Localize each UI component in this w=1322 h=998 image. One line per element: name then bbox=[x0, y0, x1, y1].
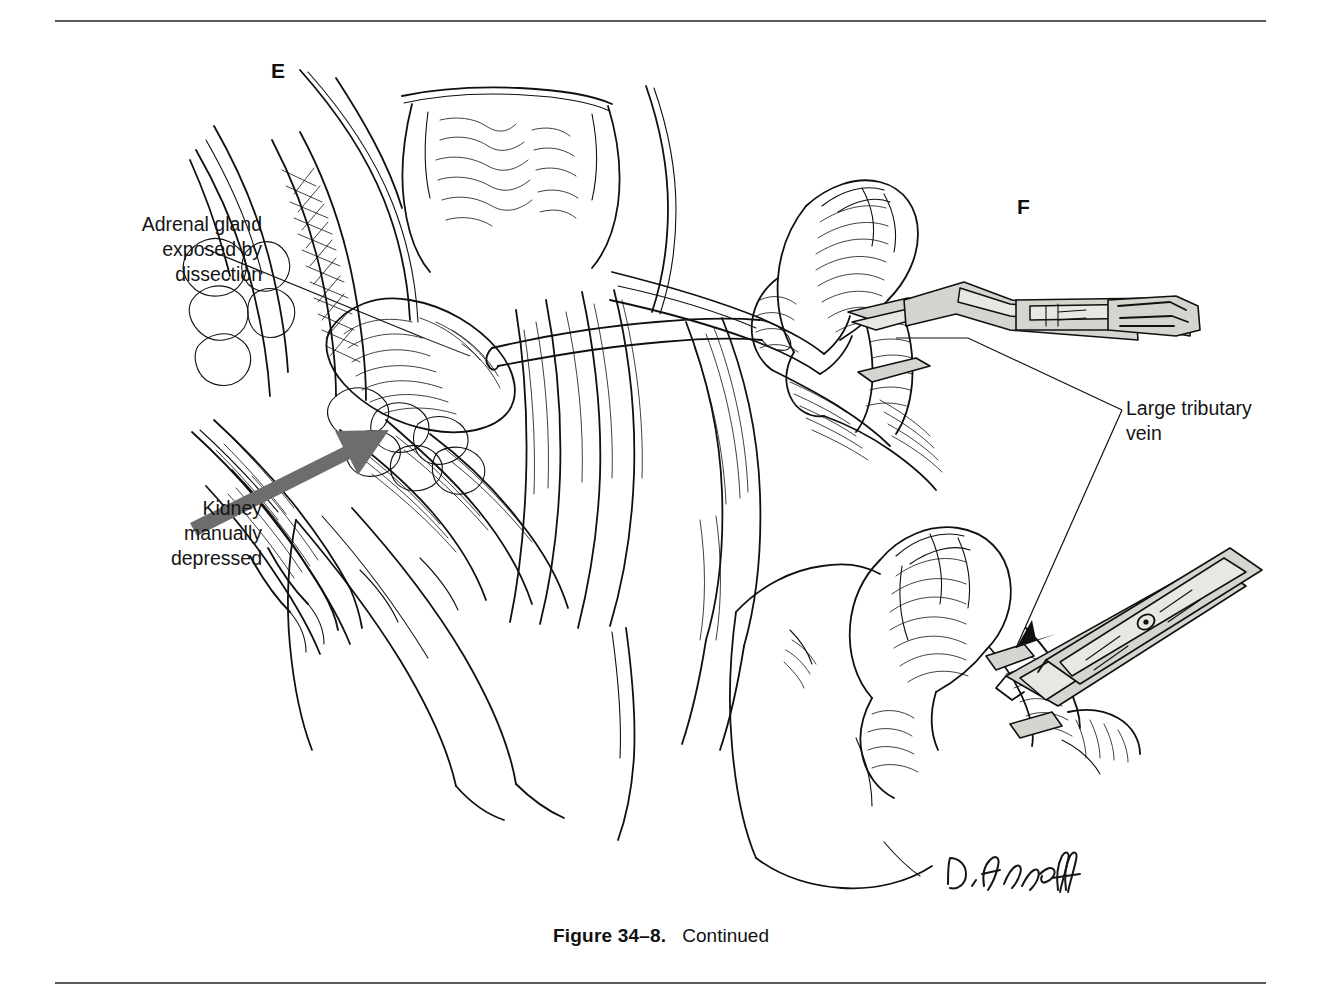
annotation-adrenal-gland: Adrenal gland exposed by dissection bbox=[62, 212, 262, 287]
panel-letter-e: E bbox=[271, 60, 286, 81]
annotation-large-tributary-vein: Large tributary vein bbox=[1126, 396, 1316, 446]
vein-leader-lines bbox=[896, 338, 1122, 648]
annotation-kidney-depressed: Kidney manually depressed bbox=[90, 496, 262, 571]
panel-letter-f: F bbox=[1017, 196, 1030, 217]
figure-caption: Figure 34–8.Continued bbox=[0, 925, 1322, 947]
figure-caption-text: Continued bbox=[682, 925, 769, 946]
panel-f-lower-artwork bbox=[730, 527, 1262, 892]
panel-e-artwork bbox=[183, 70, 852, 840]
figure-caption-label: Figure 34–8. bbox=[553, 925, 666, 946]
figure-page: E F Adrenal gland exposed by dissection … bbox=[0, 0, 1322, 998]
artist-signature bbox=[948, 853, 1080, 892]
upper-hemostat bbox=[848, 282, 1200, 382]
